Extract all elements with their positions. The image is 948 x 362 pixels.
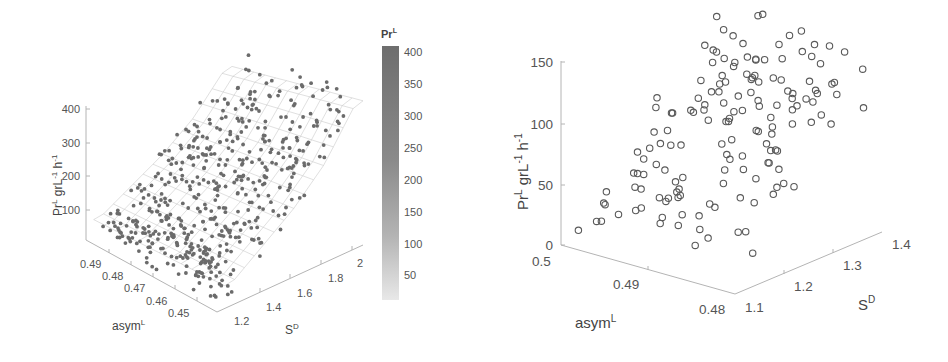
data-point: [834, 91, 840, 97]
data-point: [156, 237, 160, 241]
colorbar-tick: 250: [404, 142, 422, 154]
data-point: [240, 187, 244, 191]
data-point: [248, 92, 252, 96]
data-point: [203, 227, 207, 231]
data-point: [769, 124, 775, 130]
data-point: [724, 151, 730, 157]
data-point: [198, 281, 202, 285]
data-point: [753, 127, 759, 133]
data-point: [638, 205, 644, 211]
data-point: [828, 121, 834, 127]
data-point: [224, 260, 228, 264]
data-point: [696, 213, 702, 219]
data-point: [220, 229, 224, 233]
data-point: [778, 77, 784, 83]
data-point: [224, 115, 228, 119]
data-point: [167, 216, 171, 220]
data-point: [125, 224, 129, 228]
data-point: [298, 75, 302, 79]
data-point: [709, 59, 715, 65]
data-point: [219, 284, 223, 288]
data-point: [225, 249, 229, 253]
data-point: [680, 174, 686, 180]
right-asym-tick: 0.5: [532, 254, 551, 269]
data-point: [290, 68, 294, 72]
data-point: [246, 208, 250, 212]
data-point: [204, 159, 208, 163]
data-point: [248, 97, 252, 101]
data-point: [336, 129, 340, 133]
data-point: [147, 193, 151, 197]
data-point: [301, 115, 305, 119]
data-point: [194, 274, 198, 278]
data-point: [156, 172, 160, 176]
data-point: [188, 188, 192, 192]
data-point: [312, 124, 316, 128]
data-point: [160, 177, 164, 181]
data-point: [776, 41, 782, 47]
data-point: [127, 237, 131, 241]
data-point: [230, 290, 234, 294]
data-point: [322, 156, 326, 160]
figure: 400 300 200 100 0.49 0.48 0.47 0.46 0.45…: [0, 0, 948, 362]
data-point: [753, 176, 759, 182]
data-point: [201, 152, 205, 156]
data-point: [218, 244, 222, 248]
data-point: [786, 32, 792, 38]
data-point: [203, 203, 207, 207]
data-point: [735, 229, 741, 235]
data-point: [183, 226, 187, 230]
data-point: [697, 226, 703, 232]
data-point: [163, 231, 167, 235]
data-point: [153, 196, 157, 200]
data-point: [179, 167, 183, 171]
data-point: [157, 204, 161, 208]
data-point: [147, 224, 151, 228]
data-point: [305, 142, 309, 146]
data-point: [781, 180, 787, 186]
data-point: [810, 99, 816, 105]
data-point: [274, 162, 278, 166]
data-point: [181, 202, 185, 206]
right-3d-plot: 150 100 50 0 0.5 0.49 0.48 1.1 1.2 1.3 1…: [513, 11, 911, 331]
colorbar-gradient: [382, 46, 399, 300]
data-point: [201, 220, 205, 224]
data-point: [257, 237, 261, 241]
data-point: [328, 108, 332, 112]
data-point: [170, 157, 174, 161]
data-point: [307, 162, 311, 166]
data-point: [187, 129, 191, 133]
data-point: [116, 236, 120, 240]
data-point: [191, 253, 195, 257]
data-point: [255, 226, 259, 230]
data-point: [328, 134, 332, 138]
data-point: [185, 237, 189, 241]
data-point: [154, 200, 158, 204]
data-point: [166, 237, 170, 241]
data-point: [234, 236, 238, 240]
data-point: [292, 172, 296, 176]
data-point: [234, 107, 238, 111]
data-point: [204, 248, 208, 252]
data-point: [196, 155, 200, 159]
data-point: [719, 141, 725, 147]
data-point: [324, 129, 328, 133]
data-point: [249, 226, 253, 230]
data-point: [211, 257, 215, 261]
data-point: [209, 285, 213, 289]
colorbar-tick: 300: [404, 110, 422, 122]
data-point: [180, 174, 184, 178]
data-point: [159, 198, 163, 202]
data-point: [109, 212, 113, 216]
data-point: [101, 225, 105, 229]
data-point: [253, 188, 257, 192]
data-point: [209, 294, 213, 298]
data-point: [198, 210, 202, 214]
data-point: [167, 149, 171, 153]
data-point: [278, 89, 282, 93]
data-point: [209, 152, 213, 156]
data-point: [175, 256, 179, 260]
data-point: [761, 57, 767, 63]
data-point: [216, 194, 220, 198]
data-point: [169, 172, 173, 176]
